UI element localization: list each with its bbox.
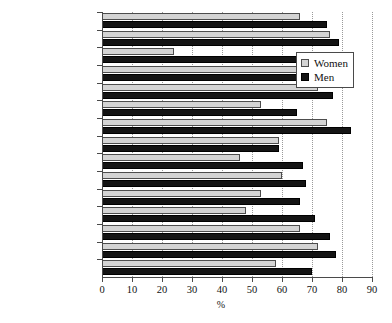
bar-group — [102, 259, 372, 277]
bar-women — [102, 172, 282, 179]
x-axis-tick-10 — [132, 277, 133, 282]
legend-item-women: Women — [301, 56, 348, 70]
bar-group — [102, 206, 372, 224]
bar-women — [102, 137, 279, 144]
bar-men — [102, 268, 312, 275]
bar-group — [102, 30, 372, 48]
bar-group — [102, 224, 372, 242]
bar-women — [102, 225, 300, 232]
x-axis-tick-label: 30 — [179, 284, 205, 295]
bar-men — [102, 56, 300, 63]
bar-women — [102, 66, 303, 73]
y-axis-tick — [97, 259, 102, 260]
x-axis-tick-label: 20 — [149, 284, 175, 295]
legend-swatch-men — [301, 73, 309, 81]
x-axis-tick-label: 50 — [239, 284, 265, 295]
bar-chart: 0102030405060708090 United StatesNorwayT… — [0, 0, 392, 323]
y-axis-tick — [97, 118, 102, 119]
x-axis-tick-70 — [312, 277, 313, 282]
chart-legend: WomenMen — [296, 52, 354, 88]
y-axis-tick — [97, 83, 102, 84]
x-axis-title-text: % — [217, 299, 225, 310]
bar-group — [102, 118, 372, 136]
bar-women — [102, 101, 261, 108]
bar-men — [102, 180, 306, 187]
bar-men — [102, 127, 351, 134]
bar-women — [102, 84, 318, 91]
bar-men — [102, 74, 315, 81]
bar-women — [102, 207, 246, 214]
y-axis-tick — [97, 206, 102, 207]
y-axis-tick — [97, 47, 102, 48]
bar-men — [102, 92, 333, 99]
bar-men — [102, 251, 336, 258]
bar-women — [102, 190, 261, 197]
bar-women — [102, 31, 330, 38]
legend-label: Men — [314, 72, 334, 83]
legend-swatch-women — [301, 59, 309, 67]
bar-group — [102, 242, 372, 260]
y-axis-tick — [97, 171, 102, 172]
bar-group — [102, 136, 372, 154]
x-axis-tick-30 — [192, 277, 193, 282]
x-axis-tick-90 — [372, 277, 373, 282]
bar-men — [102, 39, 339, 46]
bar-men — [102, 215, 315, 222]
y-axis-tick — [97, 100, 102, 101]
y-axis-line — [102, 12, 103, 277]
x-axis-line — [102, 277, 373, 278]
bar-women — [102, 119, 327, 126]
bar-men — [102, 145, 279, 152]
bar-men — [102, 162, 303, 169]
bar-men — [102, 109, 297, 116]
bar-women — [102, 243, 318, 250]
bar-men — [102, 21, 327, 28]
x-axis-tick-label: 60 — [269, 284, 295, 295]
x-axis-tick-label: 10 — [119, 284, 145, 295]
x-axis-tick-0 — [102, 277, 103, 282]
bar-women — [102, 154, 240, 161]
y-axis-tick — [97, 189, 102, 190]
y-axis-tick — [97, 30, 102, 31]
bar-men — [102, 198, 300, 205]
bar-women — [102, 48, 174, 55]
bar-group — [102, 100, 372, 118]
x-axis-tick-60 — [282, 277, 283, 282]
bar-group — [102, 171, 372, 189]
y-axis-tick — [97, 136, 102, 137]
x-axis-title: % — [0, 299, 392, 310]
y-axis-tick — [97, 65, 102, 66]
x-axis-tick-label: 70 — [299, 284, 325, 295]
x-axis-tick-40 — [222, 277, 223, 282]
bar-women — [102, 260, 276, 267]
y-axis-tick — [97, 242, 102, 243]
y-axis-tick — [97, 12, 102, 13]
bar-women — [102, 13, 300, 20]
legend-label: Women — [314, 58, 348, 69]
x-axis-tick-50 — [252, 277, 253, 282]
x-axis-tick-80 — [342, 277, 343, 282]
bar-group — [102, 189, 372, 207]
y-axis-tick — [97, 153, 102, 154]
bar-men — [102, 233, 330, 240]
gridline-90 — [372, 12, 374, 277]
legend-item-men: Men — [301, 70, 348, 84]
x-axis-tick-20 — [162, 277, 163, 282]
bar-group — [102, 12, 372, 30]
x-axis-tick-label: 80 — [329, 284, 355, 295]
bar-group — [102, 153, 372, 171]
x-axis-tick-label: 90 — [359, 284, 385, 295]
x-axis-tick-label: 0 — [89, 284, 115, 295]
y-axis-tick — [97, 224, 102, 225]
x-axis-tick-label: 40 — [209, 284, 235, 295]
